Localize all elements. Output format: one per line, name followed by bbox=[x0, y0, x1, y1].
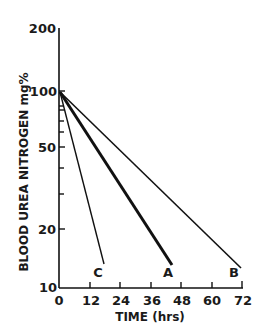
x-axis-label: TIME (hrs) bbox=[115, 310, 185, 324]
x-tick-36: 36 bbox=[143, 293, 161, 308]
x-tick-12: 12 bbox=[82, 293, 100, 308]
x-tick-24: 24 bbox=[112, 293, 130, 308]
x-tick-48: 48 bbox=[173, 293, 191, 308]
series-b-line bbox=[60, 92, 241, 268]
series-a-line bbox=[60, 92, 172, 265]
series-a-label: A bbox=[163, 265, 173, 280]
y-tick-100: 100 bbox=[30, 84, 57, 99]
x-ticks bbox=[90, 281, 242, 288]
series-c-label: C bbox=[93, 265, 103, 280]
y-tick-200: 200 bbox=[29, 21, 56, 36]
chart: 200 100 50 20 10 0 12 24 36 48 60 72 TIM… bbox=[0, 0, 258, 331]
y-tick-20: 20 bbox=[38, 222, 56, 237]
x-tick-60: 60 bbox=[203, 293, 221, 308]
y-ticks bbox=[59, 91, 65, 229]
series-b-label: B bbox=[229, 265, 239, 280]
y-tick-50: 50 bbox=[38, 140, 56, 155]
series-c-line bbox=[60, 92, 104, 264]
y-axis-label: BLOOD UREA NITROGEN mg% bbox=[17, 72, 31, 271]
x-tick-0: 0 bbox=[54, 293, 63, 308]
x-tick-72: 72 bbox=[234, 293, 252, 308]
